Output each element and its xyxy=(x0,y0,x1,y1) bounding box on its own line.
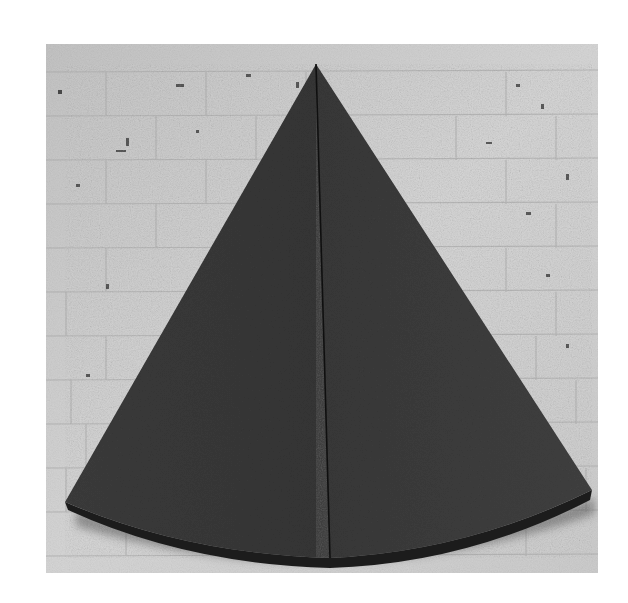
sculpture-image xyxy=(46,44,598,573)
artwork-photo xyxy=(46,44,598,573)
